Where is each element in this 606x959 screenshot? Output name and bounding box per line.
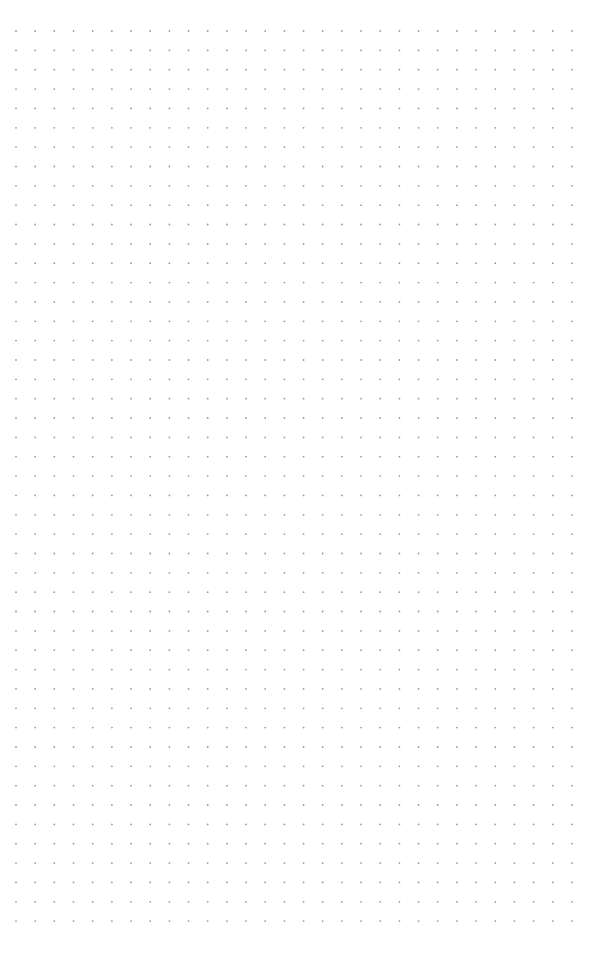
dot-grid [0,0,606,959]
